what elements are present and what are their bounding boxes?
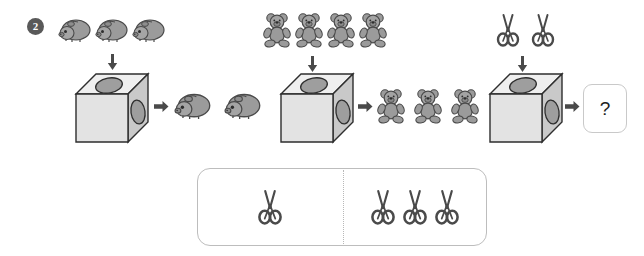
scissors-icon <box>402 189 428 225</box>
guinea-pig-icon <box>132 16 166 42</box>
arrow-right-icon <box>358 99 373 117</box>
teddy-bear-icon <box>377 88 405 124</box>
teddy-bear-icon <box>295 12 323 48</box>
group-teddy-bear-input <box>263 12 387 48</box>
teddy-bear-icon <box>359 12 387 48</box>
arrow-right-icon <box>565 99 580 117</box>
guinea-pig-icon <box>224 90 262 119</box>
guinea-pig-icon <box>95 16 129 42</box>
machine-box <box>486 70 566 150</box>
scissors-icon <box>257 189 283 225</box>
teddy-bear-icon <box>263 12 291 48</box>
machine-box <box>72 70 152 150</box>
scissors-icon <box>434 189 460 225</box>
group-scissors-input <box>496 13 555 47</box>
group-guinea-pig-input <box>58 16 166 42</box>
teddy-bear-icon <box>414 88 442 124</box>
group-teddy-bear-output <box>377 88 479 124</box>
problem-number-badge: 2 <box>27 18 44 35</box>
scissors-icon <box>531 13 555 47</box>
scissors-icon <box>496 13 520 47</box>
scissors-icon <box>370 189 396 225</box>
answer-option-right[interactable] <box>343 168 487 246</box>
teddy-bear-icon <box>327 12 355 48</box>
worksheet-canvas: 2 <box>0 0 644 256</box>
group-guinea-pig-output <box>174 90 262 119</box>
arrow-right-icon <box>154 99 169 117</box>
answer-option-left[interactable] <box>197 168 343 246</box>
machine-box <box>277 70 357 150</box>
guinea-pig-icon <box>58 16 92 42</box>
guinea-pig-icon <box>174 90 212 119</box>
answer-question-box[interactable]: ? <box>583 84 627 133</box>
teddy-bear-icon <box>451 88 479 124</box>
